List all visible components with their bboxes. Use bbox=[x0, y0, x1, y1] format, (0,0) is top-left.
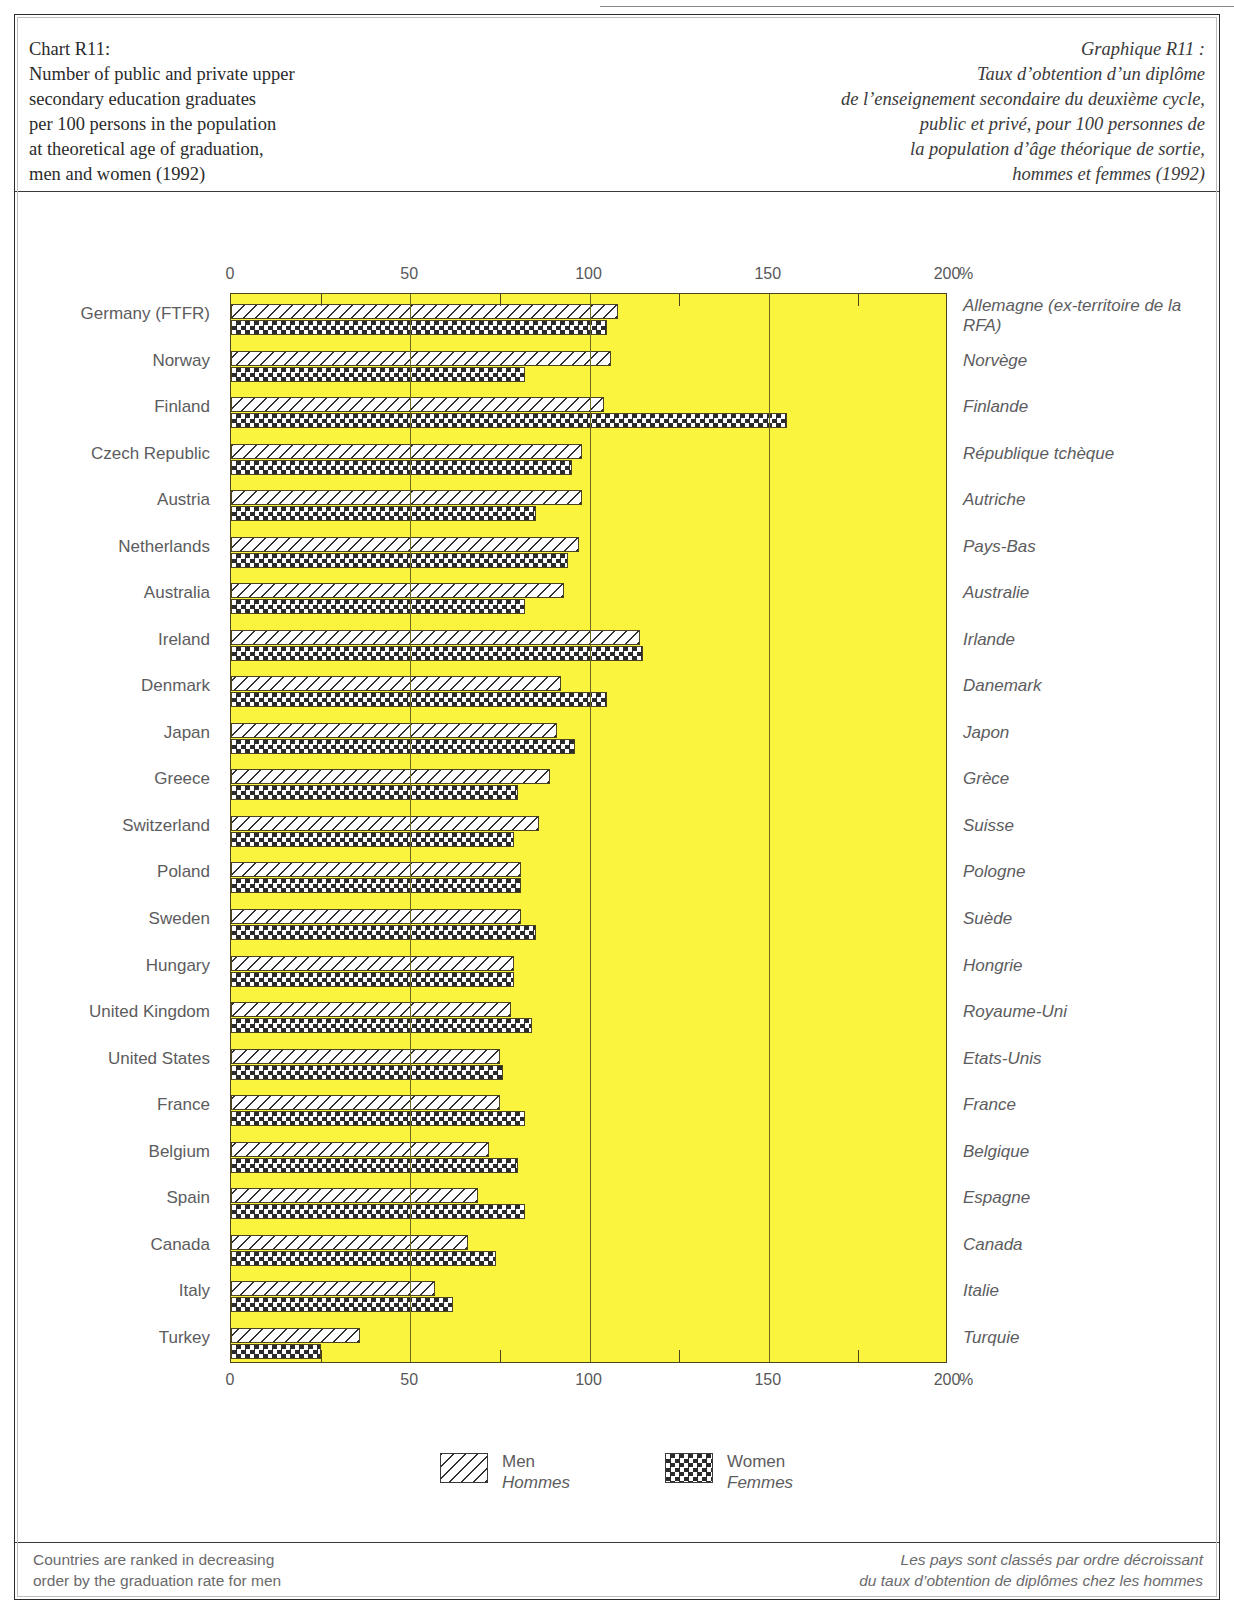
bar-row bbox=[231, 1178, 946, 1225]
bar-women bbox=[231, 832, 514, 847]
bar-men bbox=[231, 769, 550, 784]
plot-area bbox=[230, 293, 947, 1363]
bar-women bbox=[231, 599, 525, 614]
bar-men bbox=[231, 351, 611, 366]
bar-women bbox=[231, 1158, 518, 1173]
country-label-en: United Kingdom bbox=[89, 1002, 220, 1022]
country-label-en: Poland bbox=[157, 862, 220, 882]
axis-tick-75 bbox=[500, 1350, 501, 1362]
country-label-en: Norway bbox=[152, 351, 220, 371]
bar-men bbox=[231, 676, 561, 691]
bar-women bbox=[231, 785, 518, 800]
footnote-fr: Les pays sont classés par ordre décroiss… bbox=[859, 1549, 1203, 1591]
bar-row bbox=[231, 666, 946, 713]
country-label-en: Denmark bbox=[141, 676, 220, 696]
country-label-en: Czech Republic bbox=[91, 444, 220, 464]
axis-labels-bottom: 050100150200% bbox=[15, 1371, 1219, 1393]
bar-women bbox=[231, 646, 643, 661]
bar-row bbox=[231, 620, 946, 667]
bar-men bbox=[231, 583, 564, 598]
country-label-en: Ireland bbox=[158, 630, 220, 650]
legend-label-women: Women Femmes bbox=[727, 1451, 793, 1493]
axis-tick-label-top-100: 100 bbox=[575, 265, 602, 283]
bar-men bbox=[231, 630, 640, 645]
bar-men bbox=[231, 862, 521, 877]
bar-women bbox=[231, 553, 568, 568]
axis-tick-label-bottom-200: 200 bbox=[934, 1371, 961, 1389]
country-label-en: Netherlands bbox=[118, 537, 220, 557]
country-label-fr: Belgique bbox=[963, 1142, 1203, 1162]
country-label-en: United States bbox=[108, 1049, 220, 1069]
country-label-en: Spain bbox=[167, 1188, 220, 1208]
bar-row bbox=[231, 294, 946, 341]
country-label-fr: Espagne bbox=[963, 1188, 1203, 1208]
bar-women bbox=[231, 972, 514, 987]
country-label-fr: Japon bbox=[963, 723, 1203, 743]
bar-men bbox=[231, 1235, 468, 1250]
bar-women bbox=[231, 1204, 525, 1219]
axis-tick-175 bbox=[858, 1350, 859, 1362]
chart-body: 050100150200% 050100150200% Germany (FTF… bbox=[15, 191, 1219, 1541]
bar-row bbox=[231, 1271, 946, 1318]
bar-women bbox=[231, 320, 607, 335]
axis-tick-label-top-0: 0 bbox=[226, 265, 235, 283]
bar-row bbox=[231, 899, 946, 946]
chart-legend: Men Hommes Women Femmes bbox=[15, 1443, 1219, 1503]
axis-tick-label-top-150: 150 bbox=[754, 265, 781, 283]
country-label-en: Switzerland bbox=[122, 816, 220, 836]
country-label-fr: Hongrie bbox=[963, 956, 1203, 976]
bar-men bbox=[231, 1002, 511, 1017]
country-label-fr: Italie bbox=[963, 1281, 1203, 1301]
axis-tick-label-top-50: 50 bbox=[400, 265, 418, 283]
country-label-fr: Etats-Unis bbox=[963, 1049, 1203, 1069]
chart-frame: Chart R11: Number of public and private … bbox=[14, 14, 1220, 1600]
bar-women bbox=[231, 1251, 496, 1266]
bar-row bbox=[231, 1085, 946, 1132]
bar-women bbox=[231, 878, 521, 893]
country-label-fr: Irlande bbox=[963, 630, 1203, 650]
country-label-fr: Canada bbox=[963, 1235, 1203, 1255]
country-label-fr: République tchèque bbox=[963, 444, 1203, 464]
bar-women bbox=[231, 925, 536, 940]
country-label-en: Australia bbox=[144, 583, 220, 603]
bar-men bbox=[231, 304, 618, 319]
axis-tick-75 bbox=[500, 294, 501, 306]
bar-row bbox=[231, 1224, 946, 1271]
bar-women bbox=[231, 367, 525, 382]
chart-page: Chart R11: Number of public and private … bbox=[0, 0, 1234, 1618]
country-label-fr: Grèce bbox=[963, 769, 1203, 789]
bar-men bbox=[231, 397, 604, 412]
bar-row bbox=[231, 527, 946, 574]
country-label-en: Greece bbox=[154, 769, 220, 789]
bar-men bbox=[231, 1328, 360, 1343]
bar-row bbox=[231, 713, 946, 760]
bar-men bbox=[231, 723, 557, 738]
country-label-en: Hungary bbox=[146, 956, 220, 976]
bar-men bbox=[231, 537, 579, 552]
bar-row bbox=[231, 1038, 946, 1085]
country-label-en: Austria bbox=[157, 490, 220, 510]
axis-tick-25 bbox=[321, 1350, 322, 1362]
axis-tick-label-bottom-50: 50 bbox=[400, 1371, 418, 1389]
country-label-fr: Danemark bbox=[963, 676, 1203, 696]
bar-women bbox=[231, 1065, 503, 1080]
country-label-fr: Pologne bbox=[963, 862, 1203, 882]
bar-men bbox=[231, 1281, 435, 1296]
bar-women bbox=[231, 460, 572, 475]
bar-men bbox=[231, 1095, 500, 1110]
country-label-en: Belgium bbox=[149, 1142, 220, 1162]
footer-divider bbox=[15, 1542, 1219, 1543]
country-label-en: France bbox=[157, 1095, 220, 1115]
bar-row bbox=[231, 341, 946, 388]
bar-women bbox=[231, 1344, 321, 1359]
legend-swatch-women bbox=[665, 1453, 713, 1483]
country-label-en: Turkey bbox=[159, 1328, 220, 1348]
country-label-fr: Autriche bbox=[963, 490, 1203, 510]
country-label-fr: Norvège bbox=[963, 351, 1203, 371]
header-rule bbox=[600, 6, 1234, 7]
chart-title-fr: Graphique R11 : Taux d’obtention d’un di… bbox=[645, 37, 1205, 187]
legend-label-men: Men Hommes bbox=[502, 1451, 570, 1493]
country-label-fr: Suède bbox=[963, 909, 1203, 929]
country-label-fr: Turquie bbox=[963, 1328, 1203, 1348]
country-label-en: Sweden bbox=[149, 909, 220, 929]
